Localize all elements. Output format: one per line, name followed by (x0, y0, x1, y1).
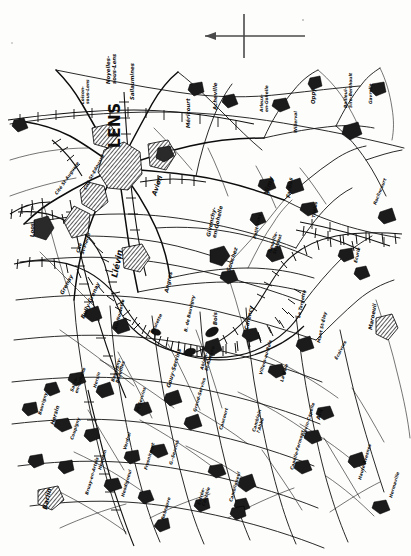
place-label-bruay: Bruay-en-Artois (84, 456, 100, 495)
place-label-fresnicourt: Fresnicourt (143, 441, 156, 470)
place-label-hesdigneul: Hesdigneul (120, 469, 133, 498)
place-label-grand-servins: Grand-Servins (192, 377, 207, 413)
ink-speck (302, 19, 304, 21)
place-label-roclincourt: Roclincourt (372, 177, 387, 206)
railway-lines (8, 92, 390, 546)
place-label-mericourt: Méricourt (185, 98, 191, 128)
place-label-willerval: Willerval (293, 111, 298, 133)
place-label-sallaumines: Sallaumines (129, 62, 135, 100)
place-label-carency: Carency (243, 305, 255, 331)
map-canvas: LENSLoison-sous-LensNoyelles-sous-LensSa… (0, 0, 411, 556)
place-label-acheville: Acheville (212, 82, 218, 111)
place-label-caucourt: Caucourt (218, 407, 229, 431)
place-label-bouvigny: Bouvigny (37, 391, 48, 416)
place-label-mont-st-eloy: Mont St-Éloy (315, 310, 328, 343)
place-labels: LENSLoison-sous-LensNoyelles-sous-LensSa… (29, 53, 400, 520)
place-label-hermaville: Hermaville (388, 471, 400, 498)
place-label-noyelles-sous-lens: Noyelles-sous-Lens (105, 53, 117, 84)
place-label-bois-de-bouvigny: B. de Bouvigny (183, 294, 196, 333)
place-label-gavrelle: Gavrelle (368, 83, 373, 104)
place-label-verdrel: Verdrel (122, 431, 132, 450)
place-label-rebreuve: Rebreuve (160, 496, 171, 520)
place-label-camblain-labbe: Camblainl'Abbé (251, 409, 267, 434)
map-drawing: LENSLoison-sous-LensNoyelles-sous-LensSa… (0, 0, 411, 556)
place-label-bois: Bois (212, 311, 218, 325)
place-label-bailleul-sire-berthoult: Bailleul-Sire-Berthoult (343, 72, 353, 108)
ink-speck (11, 42, 12, 43)
place-label-bouvigny-boyeffles: Bouvigny-Boyeffles (110, 357, 126, 384)
built-up-areas (12, 76, 398, 532)
place-label-angres: Angres (163, 270, 175, 294)
place-label-lievin: Liévin (109, 249, 125, 279)
place-label-la-targette: La Targette (296, 290, 307, 319)
place-label-lens: LENS (106, 102, 124, 148)
place-label-avion: Avion (150, 174, 164, 197)
place-label-arleux-en-gohelle: Arleux-en-Gohelle (259, 85, 269, 113)
place-label-loison-sous-lens: Loison-sous-Lens (80, 79, 90, 104)
north-arrow-icon (205, 14, 305, 58)
place-label-gouy-servins: Gouy-Servins (165, 347, 183, 388)
place-label-oppy: Oppy (310, 88, 317, 104)
place-label-loos: Loos (29, 222, 35, 237)
place-label-givenchy-en-gohelle: Givenchy-en-Gohelle (205, 204, 224, 239)
